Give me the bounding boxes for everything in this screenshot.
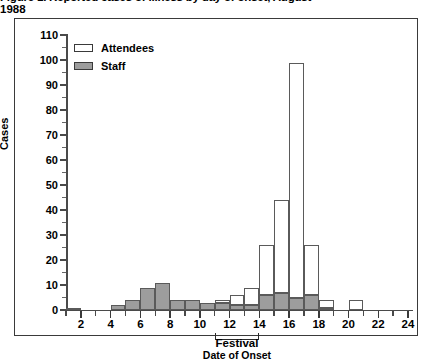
x-tick-minor [333, 311, 334, 316]
open-rect-swatch-icon [74, 44, 93, 52]
x-tick-major [80, 311, 82, 318]
x-axis-title: Date of Onset [137, 349, 337, 359]
bar-staff [274, 293, 289, 311]
x-tick-minor [155, 311, 156, 316]
y-tick-label: 20 [24, 255, 58, 265]
y-tick-label: 90 [24, 80, 58, 90]
bar-attendees [230, 295, 245, 305]
x-tick-label: 6 [128, 318, 152, 330]
x-tick-major [259, 311, 261, 318]
bar-attendees [289, 63, 304, 298]
y-tick-label: 30 [24, 230, 58, 240]
x-tick-label: 8 [158, 318, 182, 330]
y-tick-label: 80 [24, 105, 58, 115]
x-tick-minor [184, 311, 185, 316]
figure-title-line1: Figure 1. Reported cases of illness by d… [0, 0, 430, 15]
bar-staff [155, 283, 170, 311]
x-tick-label: 18 [307, 318, 331, 330]
bar-staff [140, 288, 155, 311]
bar-staff [200, 303, 215, 311]
figure-title-year: 1988 [0, 3, 26, 15]
x-tick-minor [363, 311, 364, 316]
bar-attendees [304, 245, 319, 295]
bar-staff [66, 308, 81, 311]
bar-staff [259, 295, 274, 310]
bar-staff [170, 300, 185, 310]
filled-rect-swatch-icon [74, 62, 93, 70]
y-tick-label: 70 [24, 130, 58, 140]
x-tick-label: 10 [188, 318, 212, 330]
x-tick-major [378, 311, 380, 318]
x-tick-major [199, 311, 201, 318]
y-tick-label: 50 [24, 180, 58, 190]
bar-attendees [274, 200, 289, 293]
y-tick-label: 60 [24, 155, 58, 165]
y-tick-label: 110 [24, 30, 58, 40]
x-tick-minor [125, 311, 126, 316]
bar-attendees [259, 245, 274, 295]
x-tick-label: 22 [366, 318, 390, 330]
legend-item-staff: Staff [74, 58, 154, 73]
x-tick-minor [273, 311, 274, 316]
x-tick-major [110, 311, 112, 318]
x-tick-minor [244, 311, 245, 316]
x-tick-major [348, 311, 350, 318]
x-tick-minor [65, 311, 66, 316]
bar-attendees [215, 300, 230, 303]
y-tick-label: 10 [24, 280, 58, 290]
x-tick-minor [392, 311, 393, 316]
x-tick-minor [303, 311, 304, 316]
bar-staff [111, 305, 126, 310]
bar-staff [125, 300, 140, 310]
x-tick-minor [214, 311, 215, 316]
plot-area [66, 35, 408, 310]
y-tick-label: 40 [24, 205, 58, 215]
legend-label-attendees: Attendees [101, 42, 154, 54]
y-tick-label: 0 [24, 305, 58, 315]
bar-staff [185, 300, 200, 310]
legend-label-staff: Staff [101, 60, 125, 72]
x-tick-minor [95, 311, 96, 316]
x-tick-label: 24 [396, 318, 420, 330]
x-tick-label: 4 [99, 318, 123, 330]
bar-attendees [349, 300, 364, 310]
chart-legend: Attendees Staff [74, 40, 154, 76]
x-tick-major [169, 311, 171, 318]
x-tick-label: 20 [337, 318, 361, 330]
festival-label: Festival [215, 337, 260, 349]
x-tick-major [407, 311, 409, 318]
bar-staff [289, 298, 304, 311]
y-tick-label: 100 [24, 55, 58, 65]
x-tick-major [288, 311, 290, 318]
x-tick-label: 2 [69, 318, 93, 330]
bar-attendees [319, 300, 334, 308]
bar-staff [244, 305, 259, 310]
x-tick-major [318, 311, 320, 318]
bar-staff [319, 308, 334, 311]
x-tick-label: 16 [277, 318, 301, 330]
x-tick-label: 14 [247, 318, 271, 330]
bar-attendees [244, 288, 259, 306]
x-tick-major [229, 311, 231, 318]
bar-staff [230, 305, 245, 310]
x-tick-major [140, 311, 142, 318]
y-axis-title: Cases [0, 118, 10, 150]
x-tick-label: 12 [218, 318, 242, 330]
bar-staff [304, 295, 319, 310]
legend-item-attendees: Attendees [74, 40, 154, 55]
bar-staff [215, 303, 230, 311]
